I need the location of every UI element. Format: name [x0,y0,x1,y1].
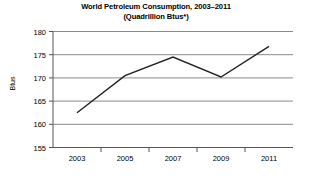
y-tick-marks [49,32,53,148]
petroleum-consumption-line-chart: World Petroleum Consumption, 2003–2011 (… [0,0,312,176]
y-tick-label-155: 155 [33,144,46,153]
x-tick-label-2005: 2005 [117,154,134,163]
y-tick-label-180: 180 [33,28,46,37]
plot-background [53,32,293,148]
x-tick-label-2009: 2009 [213,154,230,163]
x-tick-label-2003: 2003 [69,154,86,163]
x-tick-label-2007: 2007 [165,154,182,163]
x-tick-label-2011: 2011 [261,154,277,163]
plot-area: 180 175 170 165 160 155 2003 2005 2007 2… [0,0,312,176]
y-tick-label-160: 160 [33,120,46,129]
x-tick-labels: 2003 2005 2007 2009 2011 [69,154,277,163]
y-tick-label-165: 165 [33,97,46,106]
x-tick-marks [101,148,245,153]
y-tick-labels: 180 175 170 165 160 155 [33,28,46,153]
y-tick-label-170: 170 [33,74,46,83]
y-tick-label-175: 175 [33,51,46,60]
